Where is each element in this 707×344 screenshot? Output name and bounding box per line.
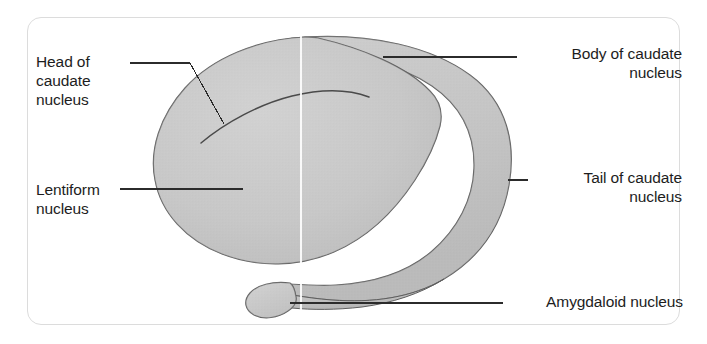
label-head-of-caudate-nucleus: Head of caudate nucleus	[36, 52, 196, 109]
figure-root: Head of caudate nucleus Lentiform nucleu…	[0, 0, 707, 344]
label-amygdaloid-nucleus: Amygdaloid nucleus	[505, 292, 683, 311]
amygdaloid-bulb	[246, 282, 296, 317]
label-tail-of-caudate-nucleus: Tail of caudate nucleus	[520, 168, 682, 206]
label-lentiform-nucleus: Lentiform nucleus	[36, 180, 196, 218]
label-body-of-caudate-nucleus: Body of caudate nucleus	[520, 44, 682, 82]
lentiform-and-caudate-mass	[153, 37, 441, 264]
